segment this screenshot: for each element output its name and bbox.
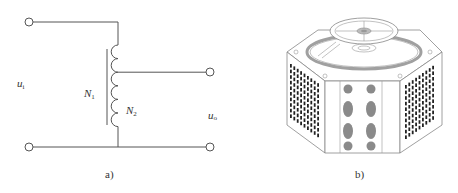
vent-slot — [317, 106, 319, 110]
vent-slot — [293, 106, 295, 110]
vent-slot — [412, 97, 414, 101]
vent-slot — [304, 85, 306, 89]
vent-slot — [425, 121, 427, 125]
vent-slot — [429, 74, 431, 78]
knob-small[interactable] — [344, 85, 353, 94]
knob-small[interactable] — [367, 142, 376, 151]
variac-device-drawing: b) — [287, 18, 442, 181]
vent-slot — [310, 95, 312, 99]
knob-oval[interactable] — [343, 101, 353, 117]
knob-oval[interactable] — [343, 123, 353, 139]
vent-slot — [425, 99, 427, 103]
vent-slot — [405, 91, 407, 95]
vent-slot — [297, 108, 299, 112]
vent-slot — [290, 86, 292, 90]
vent-slot — [415, 100, 417, 104]
vent-slot — [408, 111, 410, 115]
vent-slot — [415, 95, 417, 99]
vent-slot — [314, 126, 316, 130]
input-voltage-label: ui — [17, 77, 25, 91]
knob-oval[interactable] — [366, 101, 376, 117]
vent-slot — [419, 120, 421, 124]
vent-slot — [419, 103, 421, 107]
vent-slot — [408, 116, 410, 120]
vent-slot — [408, 105, 410, 109]
vent-slot — [408, 127, 410, 131]
vent-slot — [300, 94, 302, 98]
vent-slot — [290, 92, 292, 96]
vent-slot — [412, 91, 414, 95]
vent-slot — [290, 114, 292, 118]
winding-n2-label: N2 — [125, 104, 137, 118]
vent-slot — [425, 115, 427, 119]
vent-slot — [317, 111, 319, 115]
vent-slot — [307, 93, 309, 97]
vent-slot — [425, 104, 427, 108]
vent-slot — [310, 118, 312, 122]
vent-slot — [310, 123, 312, 127]
vent-slot — [405, 113, 407, 117]
vent-slot — [293, 100, 295, 104]
vent-slot — [300, 105, 302, 109]
vent-slot — [290, 98, 292, 102]
vent-slot — [432, 116, 434, 120]
vent-slot — [297, 119, 299, 123]
vent-slot — [425, 76, 427, 80]
vent-slot — [290, 103, 292, 107]
vent-slot — [314, 86, 316, 90]
vent-slot — [310, 78, 312, 82]
vent-slot — [432, 105, 434, 109]
vent-slot — [293, 72, 295, 76]
vent-slot — [304, 90, 306, 94]
vent-slot — [429, 91, 431, 95]
vent-slot — [412, 86, 414, 90]
vent-slot — [419, 92, 421, 96]
vent-slot — [317, 94, 319, 98]
knob-small[interactable] — [367, 85, 376, 94]
input-terminal-top — [25, 18, 33, 26]
vent-slot — [405, 102, 407, 106]
vent-slot — [307, 98, 309, 102]
vent-slot — [432, 77, 434, 81]
vent-slot — [310, 84, 312, 88]
vent-slot — [297, 74, 299, 78]
vent-slot — [419, 115, 421, 119]
vent-slot — [415, 111, 417, 115]
vent-slot — [405, 96, 407, 100]
vent-slot — [297, 80, 299, 84]
handwheel-hub-center — [361, 30, 367, 33]
vent-slot — [293, 78, 295, 82]
vent-slot — [422, 79, 424, 83]
vent-slot — [432, 94, 434, 98]
vent-slot — [422, 73, 424, 77]
vent-slot — [415, 83, 417, 87]
vent-slot — [408, 122, 410, 126]
vent-slot — [300, 110, 302, 114]
vent-slot — [422, 95, 424, 99]
vent-slot — [310, 106, 312, 110]
vent-slot — [317, 100, 319, 104]
vent-slot — [412, 114, 414, 118]
vent-slot — [415, 106, 417, 110]
vent-slot — [317, 122, 319, 126]
vent-slot — [422, 101, 424, 105]
vent-slot — [300, 116, 302, 120]
vent-slot — [408, 88, 410, 92]
vent-slot — [415, 128, 417, 132]
vent-slot — [405, 124, 407, 128]
knob-oval[interactable] — [366, 123, 376, 139]
vent-slot — [290, 81, 292, 85]
vent-slot — [297, 114, 299, 118]
vent-slot — [300, 82, 302, 86]
knob-small[interactable] — [344, 142, 353, 151]
vent-slot — [317, 128, 319, 132]
vent-slot — [307, 126, 309, 130]
vent-slot — [419, 75, 421, 79]
vent-slot — [300, 122, 302, 126]
vent-slot — [425, 71, 427, 75]
vent-slot — [297, 97, 299, 101]
vent-slot — [290, 70, 292, 74]
vent-slot — [429, 79, 431, 83]
coil-winding — [111, 45, 118, 127]
vent-slot — [300, 99, 302, 103]
